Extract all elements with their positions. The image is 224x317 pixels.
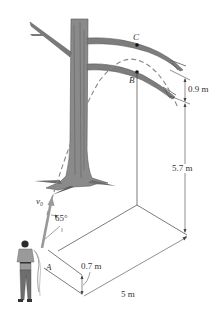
point-c-marker [135, 43, 139, 47]
angle-label: 65° [55, 214, 68, 223]
point-a-label: A [46, 263, 52, 272]
projectile-diagram: C B A v₀ 65° 0.9 m 5.7 m 0.7 m 5 m [0, 0, 224, 317]
dimension-5m-label: 5 m [121, 290, 135, 299]
velocity-arrow [42, 196, 55, 248]
point-c-label: C [133, 33, 139, 42]
person-figure [17, 240, 41, 302]
dimension-0-7m-label: 0.7 m [81, 262, 102, 271]
trajectory-path [47, 59, 178, 215]
point-b-label: B [129, 76, 135, 85]
velocity-label: v₀ [36, 197, 43, 206]
tree [30, 19, 186, 195]
dimension-0-9m-label: 0.9 m [188, 85, 209, 94]
dimension-5-7m-label: 5.7 m [172, 164, 193, 173]
